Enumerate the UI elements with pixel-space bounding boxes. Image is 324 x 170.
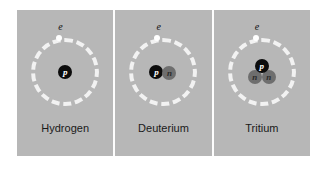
diagram-plate: e p Hydrogen e p n Deuterium e p (17, 10, 310, 156)
panel-caption-tritium: Tritium (214, 122, 310, 134)
electron-label: e (156, 22, 160, 32)
panel-tritium: e p n n Tritium (212, 10, 310, 156)
electron-particle (253, 35, 259, 41)
electron-label: e (58, 22, 62, 32)
proton-particle: p (255, 59, 269, 73)
electron-label: e (255, 22, 259, 32)
panel-caption-hydrogen: Hydrogen (17, 122, 113, 134)
panel-caption-deuterium: Deuterium (115, 122, 211, 134)
isotope-diagram-figure: e p Hydrogen e p n Deuterium e p (0, 0, 324, 170)
panel-hydrogen: e p Hydrogen (17, 10, 113, 156)
panel-deuterium: e p n Deuterium (113, 10, 211, 156)
